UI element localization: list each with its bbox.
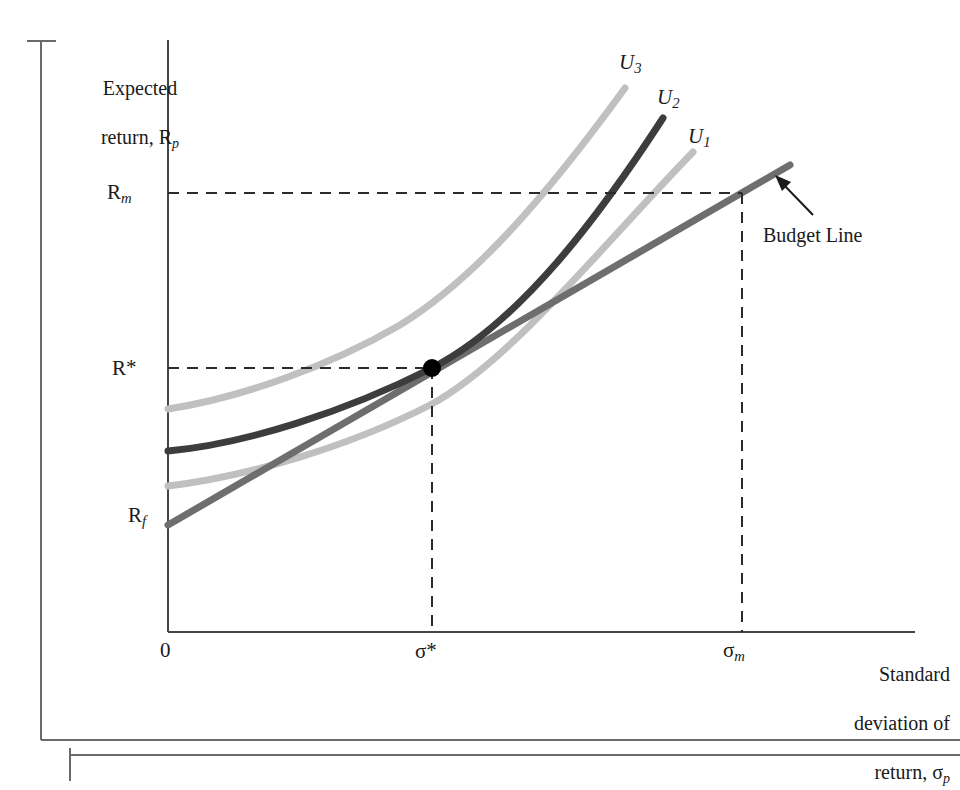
- y-tick-rf-symbol: R: [128, 503, 142, 527]
- x-axis-title-subscript: p: [943, 771, 950, 786]
- y-tick-label-optimal-return: R*: [112, 355, 137, 381]
- origin-label: 0: [160, 638, 171, 663]
- curve-label-u1-symbol: U: [688, 124, 703, 148]
- y-tick-label-market-return: Rm: [107, 180, 132, 207]
- y-axis-title: Expected return, Rp: [70, 52, 190, 177]
- x-tick-sigmastar-star: *: [426, 638, 437, 662]
- curve-label-u3-symbol: U: [619, 50, 634, 74]
- y-axis-title-subscript: p: [172, 136, 179, 151]
- y-tick-rstar-symbol: R: [112, 356, 126, 380]
- y-tick-rm-symbol: R: [107, 180, 121, 204]
- guide-lines: [168, 193, 742, 632]
- y-axis-title-line1: Expected: [103, 77, 177, 99]
- y-tick-rf-subscript: f: [142, 513, 146, 529]
- curve-label-u1: U1: [688, 124, 711, 151]
- x-tick-sigmam-subscript: m: [734, 648, 745, 664]
- x-axis-title-line1: Standard: [879, 663, 950, 685]
- y-tick-rstar-star: *: [126, 355, 137, 379]
- y-axis-title-symbol: R: [159, 126, 172, 148]
- curve-label-u1-subscript: 1: [703, 134, 710, 150]
- x-tick-sigmastar-symbol: σ: [415, 639, 426, 663]
- budget-line: [168, 165, 790, 525]
- y-tick-label-risk-free-return: Rf: [128, 503, 146, 530]
- curve-label-u2-subscript: 2: [672, 95, 679, 111]
- curve-label-u3: U3: [619, 50, 642, 77]
- budget-line-annotation: Budget Line: [763, 224, 862, 248]
- x-tick-label-market-risk: σm: [723, 638, 745, 665]
- y-axis-title-line2: return,: [101, 126, 159, 148]
- y-tick-rm-subscript: m: [121, 190, 132, 206]
- x-axis-title: Standard deviation of return, σp: [800, 638, 950, 790]
- x-axis-title-line2: deviation of: [854, 712, 950, 734]
- axis-lines: [168, 40, 915, 632]
- budget-line-arrow: [775, 175, 813, 215]
- x-tick-sigmam-symbol: σ: [723, 638, 734, 662]
- x-axis-title-line3: return,: [874, 761, 932, 783]
- x-tick-label-optimal-risk: σ*: [415, 638, 437, 664]
- tangency-point-marker: [423, 359, 441, 377]
- curve-label-u2: U2: [657, 85, 680, 112]
- x-axis-title-symbol: σ: [932, 761, 943, 783]
- indifference-curve-3: [168, 88, 625, 409]
- curve-label-u3-subscript: 3: [634, 60, 641, 76]
- curve-label-u2-symbol: U: [657, 85, 672, 109]
